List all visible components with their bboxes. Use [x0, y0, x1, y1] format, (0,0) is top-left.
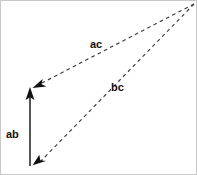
vector-ac-shaft: [40, 4, 194, 84]
vector-label-ab: ab: [6, 129, 19, 140]
vector-ab: [26, 87, 35, 166]
vector-label-ac: ac: [90, 39, 102, 50]
vector-bc-arrowhead: [33, 155, 46, 165]
vector-diagram-canvas: ab ac bc: [0, 0, 197, 175]
vector-diagram-svg: [1, 1, 197, 175]
vector-label-bc: bc: [111, 82, 124, 93]
vector-ac: [33, 4, 195, 88]
vector-ac-arrowhead: [33, 79, 47, 88]
